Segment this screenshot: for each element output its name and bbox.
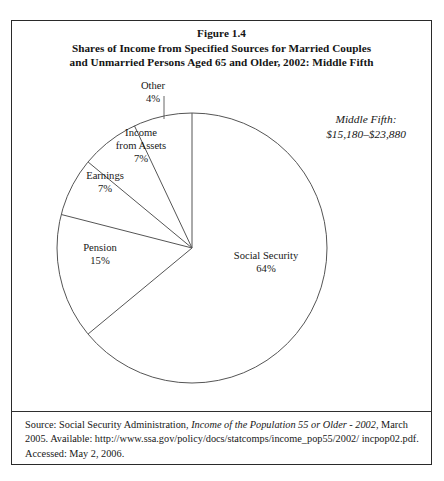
source-publication-title: Income of the Population 55 or Older - 2…	[191, 419, 378, 430]
slice-label-income-from-assets: Income from Assets 7%	[91, 126, 191, 166]
slice-label-other-value: 4%	[108, 92, 198, 105]
source-note: Source: Social Security Administration, …	[25, 418, 423, 461]
slice-label-earnings: Earnings 7%	[57, 169, 153, 195]
slice-label-pension: Pension 15%	[52, 241, 148, 267]
slice-label-earnings-value: 7%	[57, 182, 153, 195]
middle-fifth-annotation: Middle Fifth: $15,180–$23,880	[296, 112, 436, 141]
slice-label-pension-name: Pension	[52, 241, 148, 254]
slice-label-social-security-name: Social Security	[196, 249, 336, 262]
slice-label-assets-name-line-2: from Assets	[91, 139, 191, 152]
pie-chart-svg	[11, 20, 432, 411]
slice-label-social-security-value: 64%	[196, 262, 336, 275]
slice-label-social-security: Social Security 64%	[196, 249, 336, 275]
annotation-line-2: $15,180–$23,880	[296, 127, 436, 142]
figure-page: Figure 1.4 Shares of Income from Specifi…	[0, 0, 444, 481]
slice-label-earnings-name: Earnings	[57, 169, 153, 182]
annotation-line-1: Middle Fifth:	[296, 112, 436, 127]
slice-label-other: Other 4%	[108, 79, 198, 105]
source-prefix: Source: Social Security Administration,	[25, 419, 191, 430]
slice-label-assets-value: 7%	[91, 152, 191, 165]
slice-label-pension-value: 15%	[52, 254, 148, 267]
source-divider	[11, 411, 432, 412]
pie-chart	[11, 20, 432, 411]
slice-label-other-name: Other	[108, 79, 198, 92]
slice-label-assets-name-line-1: Income	[91, 126, 191, 139]
